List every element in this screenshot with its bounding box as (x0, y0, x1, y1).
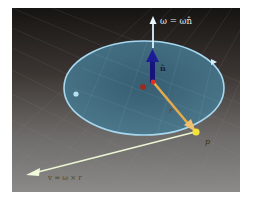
n-hat-label: n̂ (160, 63, 166, 73)
origin-marker (140, 84, 146, 90)
p-label: p (205, 137, 210, 146)
omega-label: ω = ωn̂ (160, 16, 192, 26)
rotation-direction-marker (73, 91, 78, 96)
angular-velocity-diagram: ω = ωn̂ n̂ r p v = ω × r (12, 8, 240, 192)
diagram-canvas: ω = ωn̂ n̂ r p v = ω × r (12, 8, 240, 192)
n-hat-arrow-shaft (150, 60, 155, 83)
velocity-label: v = ω × r (47, 174, 82, 182)
axis-base-marker (151, 80, 156, 85)
point-p (192, 128, 199, 135)
